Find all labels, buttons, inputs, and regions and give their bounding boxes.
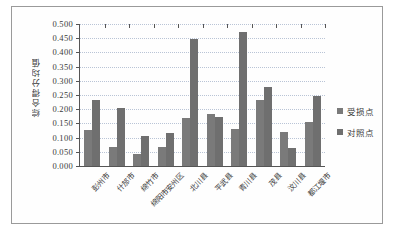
y-axis-tick-label: 0.250 <box>52 90 73 100</box>
x-axis-tick <box>325 24 326 28</box>
bar[interactable] <box>158 147 166 166</box>
bar[interactable] <box>215 117 223 166</box>
bar[interactable] <box>84 130 92 166</box>
y-axis-tick-label: 0.300 <box>52 76 73 86</box>
bar[interactable] <box>141 136 149 166</box>
bar-group <box>301 24 326 166</box>
bar[interactable] <box>117 108 125 166</box>
x-axis-label: 北川县 <box>187 170 210 193</box>
bar-group <box>203 24 228 166</box>
bar[interactable] <box>256 100 264 166</box>
bar[interactable] <box>231 129 239 166</box>
bar[interactable] <box>166 133 174 167</box>
y-axis-tick-label: 0.000 <box>52 161 73 171</box>
bar-group <box>227 24 252 166</box>
legend-label-control: 对照点 <box>347 126 374 138</box>
bar[interactable] <box>313 96 321 166</box>
x-axis-label: 都江堰市 <box>304 170 332 198</box>
y-axis-tick-label: 0.500 <box>52 19 73 29</box>
bar[interactable] <box>109 147 117 166</box>
x-axis-label: 青川县 <box>236 170 259 193</box>
bar[interactable] <box>207 114 215 166</box>
bar-group <box>178 24 203 166</box>
bar[interactable] <box>190 39 198 166</box>
bar-group <box>276 24 301 166</box>
y-axis-tick-label: 0.200 <box>52 104 73 114</box>
bar-group <box>154 24 179 166</box>
legend-label-damaged: 受损点 <box>347 105 374 117</box>
plot-area: 0.5000.4500.4000.3500.3000.2500.2000.150… <box>79 24 325 167</box>
bar-group <box>129 24 154 166</box>
x-axis-label: 彭州市 <box>89 170 112 193</box>
y-axis-tick <box>76 166 80 167</box>
legend-item-damaged[interactable]: 受损点 <box>337 105 374 117</box>
legend-swatch-control <box>337 129 343 135</box>
legend-swatch-damaged <box>337 108 343 114</box>
chart-legend: 受损点 对照点 <box>337 105 374 147</box>
bar[interactable] <box>305 122 313 166</box>
bar[interactable] <box>133 154 141 166</box>
bar[interactable] <box>92 100 100 166</box>
bar-group <box>105 24 130 166</box>
bar[interactable] <box>288 148 296 166</box>
x-axis-label: 什邡市 <box>113 170 136 193</box>
bar[interactable] <box>264 87 272 166</box>
y-axis-tick-label: 0.450 <box>52 33 73 43</box>
y-axis-tick-label: 0.150 <box>52 118 73 128</box>
bar-group <box>80 24 105 166</box>
y-axis-tick-label: 0.350 <box>52 62 73 72</box>
bar[interactable] <box>182 118 190 166</box>
chart-figure: 综合得分均值 0.5000.4500.4000.3500.3000.2500.2… <box>11 6 383 224</box>
legend-item-control[interactable]: 对照点 <box>337 126 374 138</box>
bar[interactable] <box>280 132 288 166</box>
y-axis-tick-label: 0.050 <box>52 147 73 157</box>
x-axis-label: 茂县 <box>266 170 284 188</box>
bar[interactable] <box>239 32 247 166</box>
y-axis-title: 综合得分均值 <box>33 57 45 117</box>
bar-group <box>252 24 277 166</box>
x-axis-label: 平武县 <box>211 170 234 193</box>
y-axis-tick-label: 0.100 <box>52 133 73 143</box>
y-axis-tick-label: 0.400 <box>52 47 73 57</box>
